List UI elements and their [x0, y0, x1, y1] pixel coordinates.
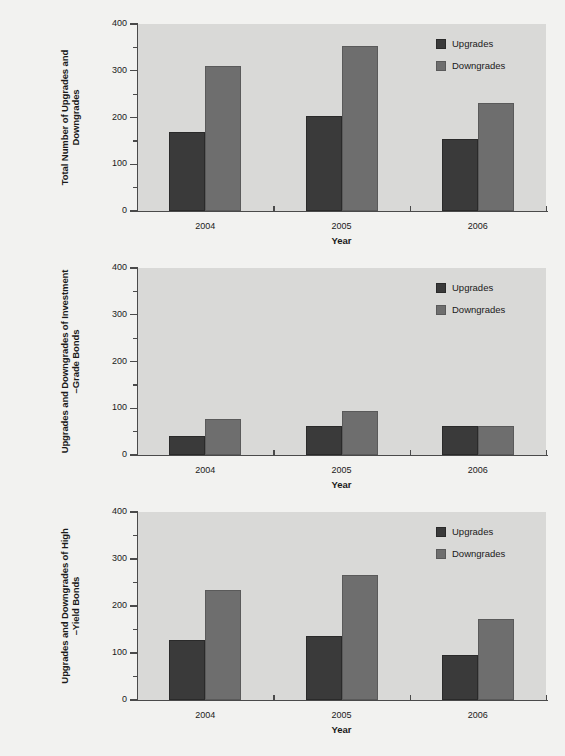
legend-item-upgrades[interactable]: Upgrades: [436, 278, 505, 294]
bar-downgrades-2004: [205, 419, 241, 455]
x-tick: [410, 206, 411, 211]
x-tick-label: 2006: [458, 710, 498, 720]
y-tick-label: 300: [101, 310, 127, 319]
legend-item-upgrades[interactable]: Upgrades: [436, 522, 505, 538]
bar-downgrades-2005: [342, 575, 378, 700]
legend-label-upgrades: Upgrades: [452, 38, 493, 49]
y-tick-major: [130, 605, 137, 606]
y-tick-minor: [133, 47, 137, 48]
y-tick-major: [130, 210, 137, 211]
y-tick-minor: [133, 187, 137, 188]
x-tick-label: 2004: [185, 465, 225, 475]
legend: UpgradesDowngrades: [436, 278, 505, 322]
y-axis-title: Upgrades and Downgrades of High –Yield B…: [59, 512, 77, 700]
y-axis-line: [137, 511, 138, 701]
y-tick-minor: [133, 629, 137, 630]
x-axis-line: [137, 211, 548, 212]
y-tick-major: [130, 511, 137, 512]
y-tick-major: [130, 314, 137, 315]
y-tick-label: 300: [101, 554, 127, 563]
y-tick-label: 200: [101, 357, 127, 366]
legend-item-downgrades[interactable]: Downgrades: [436, 544, 505, 560]
legend-swatch-upgrades: [436, 283, 446, 293]
legend-label-downgrades: Downgrades: [452, 304, 505, 315]
bar-downgrades-2006: [478, 619, 514, 700]
y-tick-minor: [133, 582, 137, 583]
y-tick-major: [130, 652, 137, 653]
x-tick-label: 2005: [322, 465, 362, 475]
bar-upgrades-2005: [306, 636, 342, 700]
y-tick-major: [130, 267, 137, 268]
y-tick-label: 400: [101, 507, 127, 516]
y-tick-label: 0: [101, 206, 127, 215]
bar-upgrades-2006: [442, 139, 478, 211]
bar-upgrades-2006: [442, 426, 478, 455]
y-tick-major: [130, 164, 137, 165]
x-tick-label: 2005: [322, 710, 362, 720]
legend-swatch-downgrades: [436, 61, 446, 71]
bar-upgrades-2006: [442, 655, 478, 700]
bar-upgrades-2004: [169, 436, 205, 455]
x-axis-title: Year: [312, 724, 372, 735]
legend-swatch-downgrades: [436, 549, 446, 559]
bar-downgrades-2005: [342, 411, 378, 455]
y-tick-minor: [133, 140, 137, 141]
bar-upgrades-2004: [169, 640, 205, 700]
x-axis-line: [137, 455, 548, 456]
legend-swatch-downgrades: [436, 305, 446, 315]
y-axis-line: [137, 23, 138, 212]
y-tick-major: [130, 70, 137, 71]
bar-upgrades-2004: [169, 132, 205, 211]
x-axis-title: Year: [312, 235, 372, 246]
x-tick-label: 2006: [458, 221, 498, 231]
y-tick-major: [130, 361, 137, 362]
x-tick: [546, 206, 547, 211]
x-axis-title: Year: [312, 479, 372, 490]
y-tick-minor: [133, 94, 137, 95]
x-tick-label: 2004: [185, 710, 225, 720]
x-axis-line: [137, 700, 548, 701]
y-tick-label: 200: [101, 601, 127, 610]
x-tick: [410, 450, 411, 455]
y-tick-label: 200: [101, 113, 127, 122]
y-tick-label: 400: [101, 19, 127, 28]
bar-downgrades-2004: [205, 66, 241, 211]
y-tick-minor: [133, 676, 137, 677]
legend-item-downgrades[interactable]: Downgrades: [436, 56, 505, 72]
y-tick-major: [130, 408, 137, 409]
x-tick: [273, 450, 274, 455]
y-tick-label: 400: [101, 263, 127, 272]
legend: UpgradesDowngrades: [436, 522, 505, 566]
legend-item-upgrades[interactable]: Upgrades: [436, 34, 505, 50]
legend-swatch-upgrades: [436, 527, 446, 537]
y-tick-major: [130, 699, 137, 700]
legend-item-downgrades[interactable]: Downgrades: [436, 300, 505, 316]
bar-downgrades-2004: [205, 590, 241, 700]
bar-upgrades-2005: [306, 426, 342, 455]
x-tick: [546, 450, 547, 455]
legend-label-downgrades: Downgrades: [452, 548, 505, 559]
y-axis-title-wrap: Upgrades and Downgrades of High –Yield B…: [59, 512, 93, 700]
bar-downgrades-2005: [342, 46, 378, 211]
x-tick: [273, 695, 274, 700]
y-tick-label: 100: [101, 403, 127, 412]
legend: UpgradesDowngrades: [436, 34, 505, 78]
y-tick-label: 300: [101, 66, 127, 75]
y-tick-major: [130, 23, 137, 24]
y-tick-label: 0: [101, 695, 127, 704]
figure-page: Total Number of Upgrades and Downgrades0…: [0, 0, 565, 756]
y-tick-major: [130, 454, 137, 455]
y-tick-major: [130, 117, 137, 118]
legend-label-upgrades: Upgrades: [452, 526, 493, 537]
x-tick-label: 2005: [322, 221, 362, 231]
x-tick: [546, 695, 547, 700]
x-tick: [410, 695, 411, 700]
y-axis-title-wrap: Upgrades and Downgrades of Investment –G…: [59, 268, 93, 455]
legend-label-downgrades: Downgrades: [452, 60, 505, 71]
y-tick-minor: [133, 384, 137, 385]
y-tick-label: 100: [101, 648, 127, 657]
y-tick-minor: [133, 535, 137, 536]
y-tick-label: 100: [101, 159, 127, 168]
y-tick-minor: [133, 431, 137, 432]
x-tick-label: 2004: [185, 221, 225, 231]
